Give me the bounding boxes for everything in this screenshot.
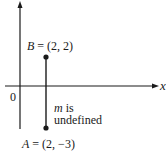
point-a-label: A = (2, −3) <box>21 137 75 151</box>
point-b-label: B = (2, 2) <box>27 39 73 53</box>
point-a <box>43 125 48 130</box>
point-b-coords: = (2, 2) <box>34 39 73 53</box>
y-axis-arrowhead <box>18 1 23 8</box>
point-b <box>43 54 48 59</box>
x-axis-label: x <box>159 78 166 93</box>
coordinate-diagram: x 0 B = (2, 2) m is undefined A = (2, −3… <box>0 0 166 155</box>
origin-label: 0 <box>10 90 16 104</box>
x-axis-arrowhead <box>152 84 159 89</box>
point-a-coords: = (2, −3) <box>29 137 75 151</box>
slope-annotation-line2: undefined <box>54 113 102 127</box>
